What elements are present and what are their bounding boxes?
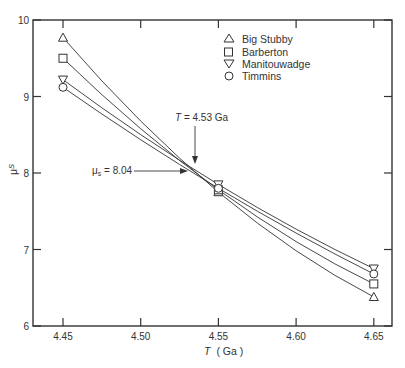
legend-label: Timmins [242,70,281,82]
square-icon [59,54,67,62]
square-icon [225,48,233,56]
annotation-t-label: T = 4.53 Ga [175,112,229,123]
x-tick-label: 4.60 [286,331,306,342]
legend-label: Big Stubby [242,33,294,45]
y-tick-label: 10 [18,15,30,26]
annotation-mu-label: μs = 8.04 [92,165,133,177]
x-tick-label: 4.65 [364,331,384,342]
x-tick-label: 4.55 [209,331,229,342]
x-tick-label: 4.50 [131,331,151,342]
annotation-mu: μs = 8.04 [92,165,188,177]
square-icon [370,280,378,288]
legend-item-big-stubby: Big Stubby [224,33,294,45]
triangle-up-icon [224,34,234,42]
plot-frame [33,20,392,326]
x-axis-label: T( Ga ) [204,345,243,357]
arrow-down-icon [192,156,198,164]
triangle-up-icon [369,292,378,300]
y-tick-label: 7 [23,245,29,256]
triangle-down-icon [224,60,234,68]
circle-icon [225,72,233,80]
legend: Big Stubby Barberton Manitouwadge Timmin… [224,33,310,82]
x-tick-label: 4.45 [53,331,73,342]
svg-text:μS: μS [7,164,19,175]
circle-icon [59,83,67,91]
y-tick-label: 8 [23,168,29,179]
legend-item-manitouwadge: Manitouwadge [224,58,310,70]
y-tick-label: 9 [23,92,29,103]
y-axis-label: μS [7,164,19,175]
circle-icon [370,270,378,278]
legend-item-timmins: Timmins [225,70,281,82]
triangle-up-icon [59,33,68,41]
legend-label: Barberton [242,46,288,58]
circle-icon [214,184,222,192]
legend-label: Manitouwadge [242,58,310,70]
chart-canvas: 4.454.504.554.604.65678910 Big Stubby Ba… [0,0,405,368]
axis-ticks: 4.454.504.554.604.65678910 [18,15,392,342]
y-tick-label: 6 [23,321,29,332]
annotation-t: T = 4.53 Ga [175,112,229,164]
legend-item-barberton: Barberton [225,46,289,58]
